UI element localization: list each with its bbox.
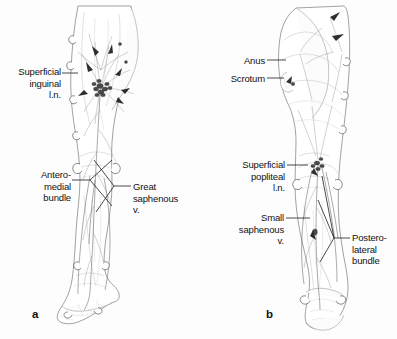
label-postero-lateral-bundle: Postero- lateral bundle <box>352 232 397 267</box>
label-great-saphenous-vein: Great saphenous v. <box>133 181 195 216</box>
label-small-saphenous-vein: Small saphenous v. <box>222 212 284 247</box>
label-scrotum: Scrotum <box>207 73 265 85</box>
panel-letter-b: b <box>266 308 273 320</box>
label-anus: Anus <box>213 55 265 67</box>
label-antero-medial-bundle: Antero- medial bundle <box>14 169 71 204</box>
anatomy-figure: Superficial inguinal l.n. Antero- medial… <box>0 0 397 339</box>
label-superficial-inguinal-ln: Superficial inguinal l.n. <box>4 66 61 101</box>
panel-letter-a: a <box>32 308 38 320</box>
label-superficial-popliteal-ln: Superficial popliteal l.n. <box>228 159 285 194</box>
panel-b-artwork <box>279 6 351 330</box>
